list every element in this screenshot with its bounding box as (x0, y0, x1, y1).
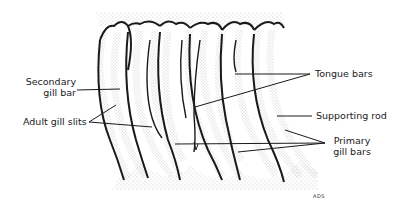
secondary-gill-bar-label-line1: Secondary (18, 76, 76, 87)
secondary-gill-bar-label: Secondary gill bar (18, 76, 76, 98)
gill-diagram (0, 0, 402, 212)
supporting-rod-label: Supporting rod (316, 110, 387, 121)
tongue-bars-label: Tongue bars (315, 68, 373, 79)
secondary-gill-bar-label-line2: gill bar (18, 87, 76, 98)
top-tissue-band (96, 12, 285, 28)
adult-gill-slits-label: Adult gill slits (23, 116, 87, 127)
primary-gill-bars-label-line2: gill bars (326, 146, 378, 157)
primary-gill-bars-label-line1: Primary (326, 135, 378, 146)
primary-gill-bars-label: Primary gill bars (326, 135, 378, 157)
artist-signature: ADS (313, 193, 325, 199)
bar-stipple-outlines (100, 30, 316, 178)
